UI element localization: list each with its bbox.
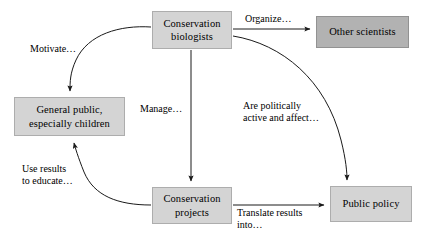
- node-other-scientists[interactable]: Other scientists: [316, 16, 409, 48]
- edge-label-organize: Organize…: [245, 13, 291, 25]
- node-label-public-policy: Public policy: [339, 197, 402, 210]
- node-label-general-public: General public, especially children: [26, 103, 113, 129]
- node-conservation-projects[interactable]: Conservation projects: [152, 187, 232, 224]
- node-public-policy[interactable]: Public policy: [330, 186, 412, 222]
- edge-use-results-arrow: [74, 143, 151, 205]
- edge-label-are-politically-active: Are politically active and affect…: [243, 100, 319, 124]
- edge-motivate-arrow: [70, 27, 151, 91]
- node-label-other-scientists: Other scientists: [326, 25, 399, 38]
- node-general-public[interactable]: General public, especially children: [14, 97, 125, 136]
- edge-label-translate-results: Translate results into…: [237, 207, 302, 231]
- edge-label-motivate: Motivate…: [30, 43, 76, 55]
- node-label-conservation-projects: Conservation projects: [160, 192, 223, 218]
- node-label-conservation-biologists: Conservation biologists: [160, 17, 223, 43]
- conservation-flow-diagram: Conservation biologists Other scientists…: [0, 0, 424, 237]
- node-conservation-biologists[interactable]: Conservation biologists: [152, 11, 232, 49]
- edge-label-manage: Manage…: [140, 103, 182, 115]
- edge-label-use-results-to-educate: Use results to educate…: [22, 163, 73, 187]
